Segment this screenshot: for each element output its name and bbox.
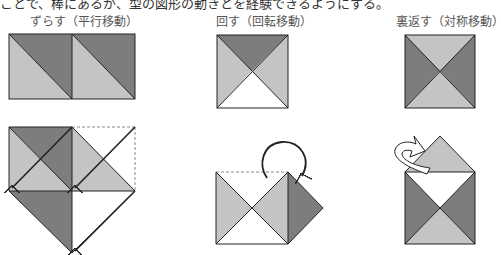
rotate-bottom-figure: [216, 172, 323, 244]
reflect-top-figure: [405, 35, 475, 108]
rotate-arrow-icon: [262, 142, 305, 178]
translate-top-figure: [9, 34, 135, 99]
rotate-top-figure: [217, 35, 288, 108]
translate-arrow-3: [75, 191, 135, 251]
